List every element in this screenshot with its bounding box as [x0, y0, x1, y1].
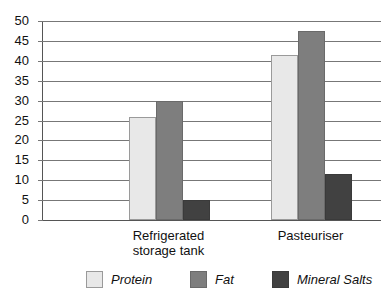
category-label-line: Refrigerated [99, 228, 239, 243]
gridline [43, 21, 381, 22]
y-axis-tick-mark [38, 180, 43, 181]
legend-swatch-icon [272, 271, 289, 288]
bar-protein-1 [271, 55, 298, 220]
bar-mineral-salts-0 [183, 200, 210, 220]
y-axis-tick-mark [38, 220, 43, 221]
y-axis-tick-label: 0 [0, 213, 29, 226]
bar-chart: 50454035302520151050 Refrigeratedstorage… [0, 0, 389, 306]
gridline [43, 41, 381, 42]
legend-item-protein[interactable]: Protein [86, 271, 152, 288]
y-axis-tick-mark [38, 81, 43, 82]
legend-swatch-icon [190, 271, 207, 288]
bar-protein-0 [129, 117, 156, 220]
legend-label: Protein [111, 272, 152, 287]
y-axis-tick-mark [38, 140, 43, 141]
legend-item-fat[interactable]: Fat [190, 271, 234, 288]
y-axis-tick-label: 35 [0, 74, 29, 87]
category-label-line: storage tank [99, 243, 239, 258]
category-label-line: Pasteuriser [241, 228, 381, 243]
y-axis-tick-label: 15 [0, 153, 29, 166]
y-axis-tick-label: 30 [0, 94, 29, 107]
legend-label: Fat [215, 272, 234, 287]
y-axis-tick-label: 20 [0, 133, 29, 146]
y-axis-tick-label: 25 [0, 114, 29, 127]
plot-area: 50454035302520151050 [42, 21, 381, 221]
bar-fat-0 [156, 101, 183, 220]
y-axis-tick-label: 10 [0, 173, 29, 186]
y-axis-tick-mark [38, 101, 43, 102]
legend-label: Mineral Salts [297, 272, 372, 287]
category-label-0: Refrigeratedstorage tank [99, 228, 239, 258]
y-axis-tick-label: 45 [0, 34, 29, 47]
y-axis-tick-mark [38, 200, 43, 201]
chart-legend: ProteinFatMineral Salts [0, 266, 389, 292]
y-axis-tick-mark [38, 41, 43, 42]
y-axis-tick-mark [38, 160, 43, 161]
bar-mineral-salts-1 [325, 174, 352, 220]
gridline [43, 140, 381, 141]
plot-wrapper: 50454035302520151050 Refrigeratedstorage… [0, 0, 389, 232]
legend-item-mineral-salts[interactable]: Mineral Salts [272, 271, 372, 288]
gridline [43, 121, 381, 122]
legend-swatch-icon [86, 271, 103, 288]
bar-fat-1 [298, 31, 325, 220]
y-axis-tick-label: 50 [0, 14, 29, 27]
gridline [43, 101, 381, 102]
y-axis-tick-label: 5 [0, 193, 29, 206]
y-axis-tick-mark [38, 121, 43, 122]
y-axis-tick-mark [38, 21, 43, 22]
gridline [43, 160, 381, 161]
y-axis-tick-label: 40 [0, 54, 29, 67]
category-label-1: Pasteuriser [241, 228, 381, 243]
gridline [43, 81, 381, 82]
gridline [43, 61, 381, 62]
y-axis-tick-mark [38, 61, 43, 62]
